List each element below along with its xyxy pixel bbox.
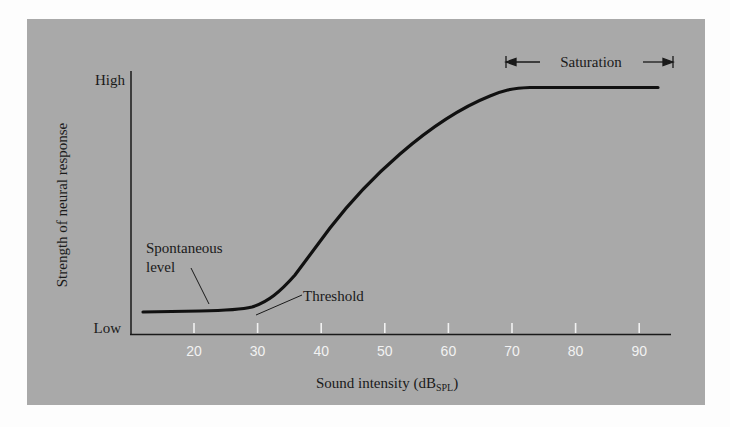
threshold-leader <box>256 295 302 315</box>
x-tick-label: 20 <box>186 343 202 359</box>
x-tick-label: 70 <box>504 343 520 359</box>
x-axis-title: Sound intensity (dBSPL) <box>316 375 458 393</box>
y-axis-title: Strength of neural response <box>54 122 70 287</box>
spontaneous-leader <box>191 268 209 304</box>
response-curve <box>143 88 658 313</box>
saturation-label: Saturation <box>560 54 622 70</box>
x-tick-label: 80 <box>568 343 584 359</box>
x-tick-label: 90 <box>631 343 647 359</box>
x-tick-label: 30 <box>250 343 266 359</box>
spontaneous-label-line2: level <box>146 259 175 275</box>
y-low-label: Low <box>94 320 122 336</box>
x-tick-label: 50 <box>377 343 393 359</box>
chart-svg: 2030405060708090 High Low Strength of ne… <box>0 0 730 427</box>
y-high-label: High <box>95 72 126 88</box>
threshold-label: Threshold <box>303 288 364 304</box>
spontaneous-label: Spontaneous <box>146 240 223 256</box>
x-ticks: 2030405060708090 <box>186 323 647 359</box>
x-tick-label: 60 <box>441 343 457 359</box>
x-tick-label: 40 <box>313 343 329 359</box>
